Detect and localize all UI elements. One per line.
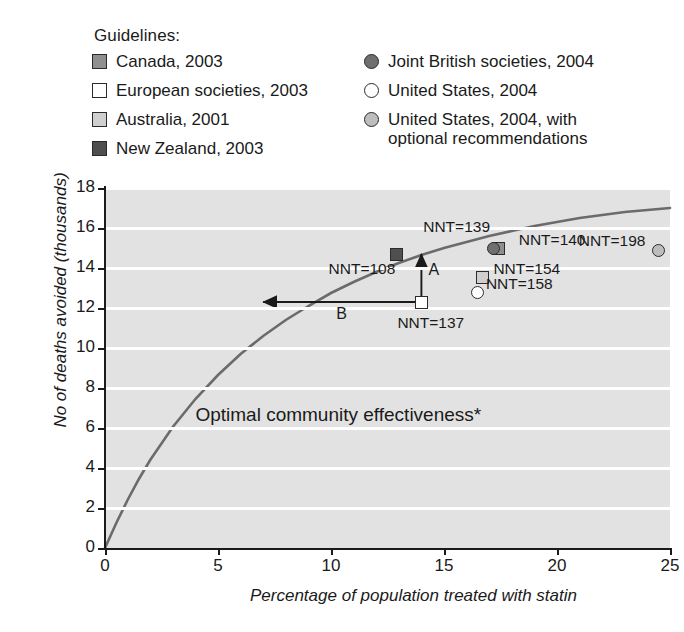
x-tick <box>105 548 107 555</box>
y-axis-title: No of deaths avoided (thousands) <box>51 135 71 465</box>
gridline-horizontal <box>105 307 670 310</box>
y-tick <box>98 428 105 430</box>
y-tick <box>98 228 105 230</box>
gridline-horizontal <box>105 227 670 230</box>
data-point-new-zealand <box>390 248 403 261</box>
x-tick <box>670 548 672 555</box>
x-tick-label: 25 <box>650 556 684 576</box>
x-tick-label: 0 <box>85 556 125 576</box>
x-tick <box>331 548 333 555</box>
x-tick <box>557 548 559 555</box>
x-axis-line <box>104 548 671 550</box>
y-tick <box>98 548 105 550</box>
data-point-european-societies <box>415 296 428 309</box>
y-tick <box>98 268 105 270</box>
gridline-horizontal <box>105 427 670 430</box>
y-tick <box>98 308 105 310</box>
nnt-label-united-states: NNT=158 <box>486 275 553 293</box>
figure-root: Guidelines: Canada, 2003European societi… <box>0 0 684 632</box>
nnt-label-canada: NNT=139 <box>423 218 490 236</box>
x-axis-title: Percentage of population treated with st… <box>250 586 680 606</box>
nnt-label-european-societies: NNT=137 <box>397 314 464 332</box>
gridline-horizontal <box>105 347 670 350</box>
nnt-label-new-zealand: NNT=108 <box>329 260 396 278</box>
data-point-united-states <box>471 286 484 299</box>
x-tick-label: 10 <box>311 556 351 576</box>
annotation-optimal-community-effectiveness: Optimal community effectiveness* <box>195 404 481 426</box>
x-tick <box>218 548 220 555</box>
gridline-horizontal <box>105 387 670 390</box>
y-tick-label: 0 <box>61 537 95 557</box>
y-tick <box>98 508 105 510</box>
data-point-joint-british-societies <box>487 242 500 255</box>
gridline-horizontal <box>105 507 670 510</box>
effectiveness-curve <box>105 208 670 548</box>
y-axis-line <box>104 186 106 550</box>
x-tick <box>444 548 446 555</box>
gridline-horizontal <box>105 187 670 190</box>
nnt-label-united-states-optional: NNT=198 <box>579 232 646 250</box>
y-tick <box>98 468 105 470</box>
x-tick-label: 5 <box>198 556 238 576</box>
annotation-letter-arrow-b: B <box>336 305 347 323</box>
nnt-label-joint-british-societies: NNT=140 <box>519 231 586 249</box>
y-tick <box>98 348 105 350</box>
y-tick <box>98 188 105 190</box>
y-tick <box>98 388 105 390</box>
annotation-letter-arrow-a: A <box>428 261 439 279</box>
x-tick-label: 15 <box>424 556 464 576</box>
chart: 024681012141618 0510152025 No of deaths … <box>0 0 684 632</box>
y-tick-label: 2 <box>61 497 95 517</box>
x-tick-label: 20 <box>537 556 577 576</box>
gridline-horizontal <box>105 467 670 470</box>
data-point-united-states-optional <box>652 244 665 257</box>
